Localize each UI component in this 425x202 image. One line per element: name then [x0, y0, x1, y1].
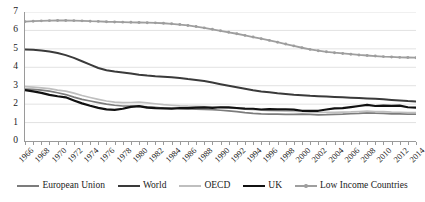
series-marker — [97, 20, 100, 23]
series-canvas — [25, 12, 416, 141]
x-tick-label: 1970 — [50, 146, 68, 164]
x-tick — [172, 142, 173, 145]
legend-item[interactable]: UK — [243, 181, 282, 191]
series-line — [25, 20, 416, 57]
x-tick — [180, 142, 181, 145]
legend-item[interactable]: World — [118, 181, 167, 191]
series-marker — [374, 55, 377, 58]
y-tick-label: 4 — [13, 63, 18, 73]
x-tick — [74, 142, 75, 145]
series-marker — [81, 19, 84, 22]
fertility-rate-line-chart: 01234567 1966196819701972197419761978198… — [0, 0, 425, 202]
series-marker — [89, 20, 92, 23]
x-tick-label: 2004 — [327, 146, 345, 164]
x-tick — [49, 142, 50, 145]
legend-label: UK — [268, 181, 282, 191]
x-tick — [326, 142, 327, 145]
series-marker — [105, 20, 108, 23]
x-tick-label: 1980 — [131, 146, 149, 164]
series-marker — [252, 36, 255, 39]
x-tick — [106, 142, 107, 145]
y-tick-label: 5 — [13, 44, 18, 54]
x-tick — [269, 142, 270, 145]
x-tick — [335, 142, 336, 145]
series-marker — [40, 19, 43, 22]
x-tick — [359, 142, 360, 145]
series-marker — [317, 49, 320, 52]
x-tick — [392, 142, 393, 145]
x-tick-label: 1978 — [115, 146, 133, 164]
x-tick-label: 1974 — [82, 146, 100, 164]
series-marker — [366, 54, 369, 57]
x-tick — [318, 142, 319, 145]
series-marker — [243, 34, 246, 37]
chart-legend: European UnionWorldOECDUKLow Income Coun… — [0, 178, 425, 194]
x-tick — [155, 142, 156, 145]
series-marker — [32, 20, 35, 23]
series-marker — [325, 50, 328, 53]
legend-label: World — [143, 181, 167, 191]
x-tick — [212, 142, 213, 145]
legend-item[interactable]: Low Income Countries — [295, 181, 408, 191]
y-tick-label: 7 — [13, 7, 18, 17]
x-tick — [253, 142, 254, 145]
x-tick — [400, 142, 401, 145]
x-tick — [408, 142, 409, 145]
x-tick-label: 2010 — [375, 146, 393, 164]
x-tick-label: 1988 — [196, 146, 214, 164]
x-tick — [261, 142, 262, 145]
series-marker — [121, 21, 124, 24]
x-tick — [204, 142, 205, 145]
series-marker — [358, 53, 361, 56]
x-tick-label: 2014 — [408, 146, 425, 164]
x-tick — [98, 142, 99, 145]
x-tick — [383, 142, 384, 145]
series-marker — [235, 32, 238, 35]
x-tick-label: 1972 — [66, 146, 84, 164]
x-tick — [123, 142, 124, 145]
x-tick-label: 2008 — [359, 146, 377, 164]
x-tick — [294, 142, 295, 145]
y-tick-label: 2 — [13, 99, 18, 109]
series-marker — [292, 44, 295, 47]
x-tick-label: 1984 — [164, 146, 182, 164]
x-tick-label: 1982 — [147, 146, 165, 164]
series-marker — [186, 24, 189, 27]
series-marker — [341, 52, 344, 55]
y-tick-label: 0 — [13, 136, 18, 146]
series-marker — [219, 29, 222, 32]
series-marker — [398, 56, 401, 59]
x-tick — [302, 142, 303, 145]
legend-item[interactable]: OECD — [179, 181, 230, 191]
series-marker — [390, 56, 393, 59]
series-marker — [146, 21, 149, 24]
y-axis: 01234567 — [0, 0, 22, 141]
x-tick — [115, 142, 116, 145]
series-marker — [260, 37, 263, 40]
x-tick-label: 1990 — [212, 146, 230, 164]
x-tick — [41, 142, 42, 145]
x-tick-label: 1976 — [98, 146, 116, 164]
series-marker — [64, 19, 67, 22]
y-tick-label: 6 — [13, 26, 18, 36]
x-tick — [375, 142, 376, 145]
series-marker — [138, 21, 141, 24]
legend-swatch-icon — [295, 185, 317, 187]
legend-item[interactable]: European Union — [17, 181, 105, 191]
x-tick — [286, 142, 287, 145]
series-marker — [178, 23, 181, 26]
x-tick — [229, 142, 230, 145]
x-tick — [343, 142, 344, 145]
series-marker — [349, 53, 352, 56]
series-marker — [25, 20, 26, 23]
series-marker — [382, 55, 385, 58]
x-tick-label: 1994 — [245, 146, 263, 164]
x-tick — [367, 142, 368, 145]
x-tick — [33, 142, 34, 145]
x-tick — [147, 142, 148, 145]
x-axis-labels: 1966196819701972197419761978198019821984… — [0, 146, 425, 176]
y-tick-label: 1 — [13, 118, 18, 128]
series-marker — [72, 19, 75, 22]
x-tick — [245, 142, 246, 145]
x-tick — [82, 142, 83, 145]
